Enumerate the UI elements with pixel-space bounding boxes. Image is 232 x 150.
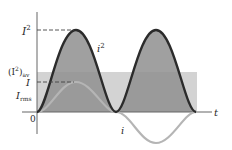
rms-current-diagram: I2 (I2)av I Irms 0 t i2 i (0, 0, 232, 150)
label-origin: 0 (30, 114, 36, 124)
label-i-curve: i (121, 125, 124, 136)
label-time-axis: t (214, 107, 219, 118)
label-i-squared-curve: i2 (97, 42, 105, 54)
label-i-squared-peak: I2 (21, 24, 31, 38)
label-i-peak: I (25, 77, 31, 88)
label-i-rms: Irms (15, 90, 32, 102)
